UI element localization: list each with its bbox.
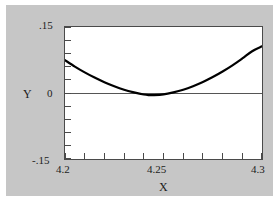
plot-inner: [65, 27, 262, 159]
plot-area: [64, 26, 263, 160]
data-curve: [65, 46, 262, 95]
x-axis-title: X: [159, 181, 168, 193]
y-tick-label-min: -.15: [32, 155, 49, 166]
y-tick-label-max: .15: [39, 20, 53, 31]
x-tick-label-mid: 4.25: [147, 164, 166, 175]
x-tick-label-min: 4.2: [56, 164, 70, 175]
y-tick-label-zero: 0: [47, 88, 53, 99]
x-tick-label-max: 4.3: [251, 164, 265, 175]
figure-canvas: .15 0 -.15 4.2 4.25 4.3 Y X: [6, 5, 273, 196]
y-axis-title: Y: [23, 88, 32, 100]
plot-svg: [65, 27, 262, 159]
chart-figure: .15 0 -.15 4.2 4.25 4.3 Y X: [0, 0, 279, 209]
